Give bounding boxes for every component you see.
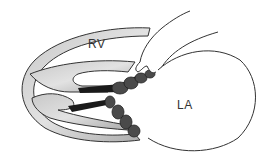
lower-leaflet-nodules: [105, 96, 140, 137]
heart-diagram: RV LA: [0, 0, 266, 159]
upper-leaflet-nodules: [112, 70, 155, 94]
rv-label: RV: [88, 37, 105, 51]
heart-illustration: [0, 0, 266, 159]
left-atrium: [148, 51, 256, 151]
la-label: LA: [177, 98, 193, 112]
